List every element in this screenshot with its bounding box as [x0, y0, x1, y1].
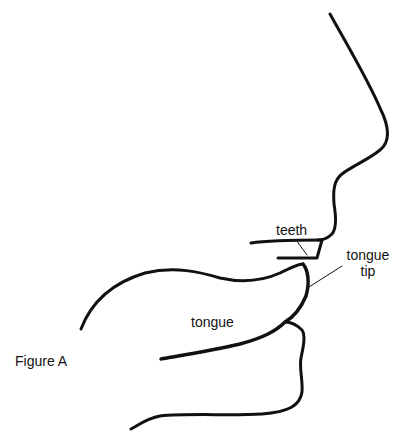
face-profile-drawing	[0, 0, 404, 440]
tongue-tip-label-line2: tip	[338, 263, 398, 279]
nose-outline	[318, 14, 388, 240]
tongue-tip-label-line1: tongue	[338, 247, 398, 263]
upper-lip-line	[251, 240, 322, 243]
teeth-label: teeth	[276, 222, 307, 238]
teeth-leader-line	[296, 240, 307, 255]
tongue-label: tongue	[191, 314, 234, 330]
lower-lip-chin-outline	[131, 322, 304, 429]
tongue-tip-label: tongue tip	[338, 247, 398, 279]
figure-caption: Figure A	[15, 353, 67, 369]
tongue-tip-contour	[161, 264, 308, 359]
upper-tooth	[278, 240, 322, 258]
